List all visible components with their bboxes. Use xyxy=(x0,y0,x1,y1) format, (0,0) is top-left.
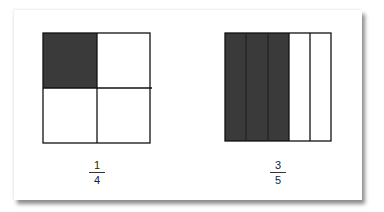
fraction-label-1-4: 1 4 xyxy=(87,159,107,186)
fraction-diagrams xyxy=(0,0,384,212)
fraction-bar xyxy=(270,172,286,173)
shaded-three-fifths xyxy=(225,33,289,141)
fraction-label-3-5: 3 5 xyxy=(268,159,288,186)
denominator: 5 xyxy=(268,174,288,186)
numerator: 1 xyxy=(87,159,107,171)
fifths-rectangle-figure xyxy=(225,33,331,141)
quarter-square-figure xyxy=(43,33,152,143)
denominator: 4 xyxy=(87,174,107,186)
numerator: 3 xyxy=(268,159,288,171)
fraction-bar xyxy=(89,172,105,173)
shaded-quarter xyxy=(43,33,97,88)
